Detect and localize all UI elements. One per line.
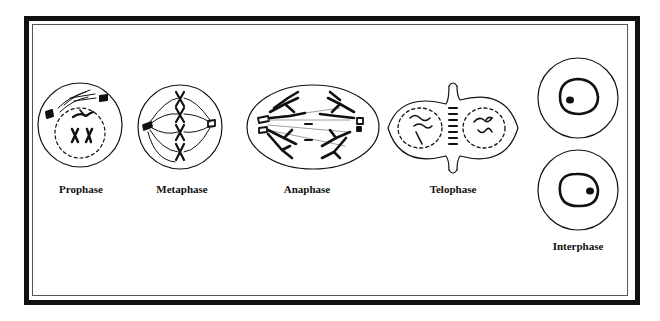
anaphase-cell xyxy=(247,85,379,169)
label-metaphase: Metaphase xyxy=(156,183,207,195)
interphase-cell-bottom xyxy=(538,150,618,230)
prophase-cell xyxy=(38,83,122,167)
mitosis-diagram: Prophase Metaphase Anaphase Telophase In… xyxy=(0,0,660,321)
label-telophase: Telophase xyxy=(430,183,477,195)
label-prophase: Prophase xyxy=(59,183,103,195)
metaphase-cell xyxy=(138,85,222,169)
nucleolus xyxy=(566,97,574,104)
nuclear-envelope-dashed xyxy=(55,108,105,158)
daughter-nucleus-left xyxy=(398,108,442,148)
telophase-cell xyxy=(388,83,518,173)
label-interphase: Interphase xyxy=(553,240,604,252)
label-anaphase: Anaphase xyxy=(284,183,330,195)
interphase-cell-top xyxy=(538,58,618,138)
daughter-nucleus-right xyxy=(463,108,505,148)
nucleolus xyxy=(586,188,594,195)
cell-drawings xyxy=(0,0,660,321)
